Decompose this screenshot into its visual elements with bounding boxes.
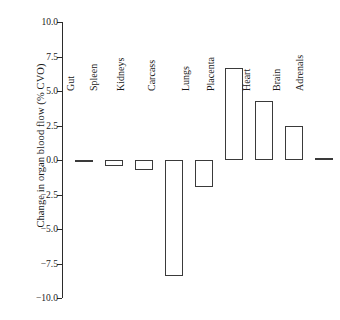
category-label: Spleen: [88, 64, 99, 91]
category-label: Adrenals: [294, 55, 305, 91]
bar-slot: [255, 22, 273, 298]
bar: [135, 160, 153, 170]
bar: [255, 101, 273, 160]
category-label: Placenta: [205, 57, 216, 91]
category-label: Kidneys: [115, 58, 126, 91]
y-axis-tick-label: −10.0: [36, 293, 58, 303]
category-label: Lungs: [180, 66, 191, 91]
y-axis-tick-label: 2.5: [46, 121, 58, 131]
plot-area: 10.07.55.02.50.0−2.5−5.0−7.5−10.0 GutSpl…: [62, 22, 332, 298]
category-label: Gut: [65, 76, 76, 91]
bar: [75, 160, 93, 162]
y-axis-tick-label: 7.5: [46, 52, 58, 62]
bar: [105, 160, 123, 166]
y-axis-tick-label: 5.0: [46, 86, 58, 96]
bar-slot: [315, 22, 333, 298]
bar: [165, 160, 183, 276]
bar: [285, 126, 303, 161]
category-label: Heart: [241, 69, 252, 91]
bar-slot: [165, 22, 183, 298]
bars-layer: [63, 22, 332, 298]
y-axis-tick-label: −5.0: [41, 224, 58, 234]
y-axis-tick-label: 0.0: [46, 155, 58, 165]
y-axis-tick-label: −7.5: [41, 259, 58, 269]
category-label: Carcass: [146, 60, 157, 91]
bar: [195, 160, 213, 187]
y-axis-tick-label: 10.0: [41, 17, 58, 27]
bar-slot: [225, 22, 243, 298]
bar: [315, 158, 333, 160]
y-axis-tick-label: −2.5: [41, 190, 58, 200]
category-label: Brain: [271, 69, 282, 91]
bar-chart: Change in organ blood flow (% CVO) 10.07…: [0, 0, 340, 320]
